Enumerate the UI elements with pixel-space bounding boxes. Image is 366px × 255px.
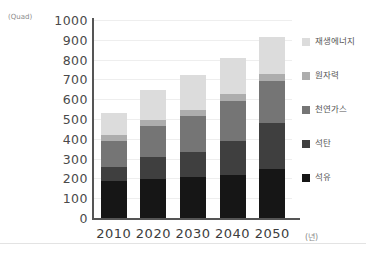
y-axis-tick-100: 100 <box>32 191 88 206</box>
bar-segment-2030-0 <box>180 177 206 218</box>
plot-area <box>94 20 292 218</box>
bar-2050 <box>259 37 285 218</box>
bar-segment-2050-0 <box>259 169 285 219</box>
y-axis-tick-800: 800 <box>32 52 88 67</box>
legend-label: 천연가스 <box>315 105 347 114</box>
y-axis-tick-300: 300 <box>32 151 88 166</box>
legend-label: 재생에너지 <box>315 37 355 46</box>
bar-segment-2040-2 <box>220 101 246 141</box>
y-axis-tick-500: 500 <box>32 112 88 127</box>
bar-segment-2010-2 <box>101 141 127 167</box>
bar-segment-2010-0 <box>101 181 127 218</box>
bar-2030 <box>180 74 206 218</box>
legend-swatch-icon <box>302 72 310 80</box>
x-axis-unit-label: (년) <box>305 231 318 242</box>
y-axis-tick-0: 0 <box>32 211 88 226</box>
bar-2040 <box>220 58 246 218</box>
bottom-divider <box>0 243 366 244</box>
bar-segment-2010-1 <box>101 167 127 182</box>
stacked-bar-chart: (Quad) 10009008007006005004003002001000 … <box>0 0 366 255</box>
bar-segment-2030-1 <box>180 152 206 178</box>
legend-swatch-icon <box>302 140 310 148</box>
bar-segment-2020-2 <box>140 126 166 157</box>
bar-segment-2050-2 <box>259 81 285 123</box>
bar-segment-2050-1 <box>259 123 285 169</box>
legend: 재생에너지원자력천연가스석탄석유 <box>302 36 366 206</box>
x-axis-line <box>92 218 300 220</box>
y-axis-tick-700: 700 <box>32 72 88 87</box>
bar-segment-2030-4 <box>180 75 206 111</box>
bar-segment-2020-0 <box>140 179 166 218</box>
bar-segment-2010-4 <box>101 113 127 135</box>
bar-2020 <box>140 90 166 218</box>
legend-label: 석탄 <box>315 139 331 148</box>
bar-segment-2050-3 <box>259 74 285 81</box>
legend-item-재생에너지[interactable]: 재생에너지 <box>302 36 366 47</box>
y-axis-tick-600: 600 <box>32 92 88 107</box>
legend-item-석유[interactable]: 석유 <box>302 172 366 183</box>
legend-item-원자력[interactable]: 원자력 <box>302 70 366 81</box>
legend-swatch-icon <box>302 174 310 182</box>
y-axis-tick-labels: 10009008007006005004003002001000 <box>32 0 88 255</box>
bar-2010 <box>101 113 127 218</box>
gridline-1000 <box>94 20 292 21</box>
legend-label: 석유 <box>315 173 331 182</box>
legend-item-천연가스[interactable]: 천연가스 <box>302 104 366 115</box>
y-axis-tick-1000: 1000 <box>32 13 88 28</box>
y-axis-tick-200: 200 <box>32 171 88 186</box>
legend-swatch-icon <box>302 38 310 46</box>
bar-segment-2020-4 <box>140 90 166 120</box>
legend-swatch-icon <box>302 106 310 114</box>
legend-item-석탄[interactable]: 석탄 <box>302 138 366 149</box>
bar-segment-2030-2 <box>180 116 206 152</box>
bar-segment-2050-4 <box>259 37 285 75</box>
bar-segment-2040-3 <box>220 94 246 101</box>
legend-label: 원자력 <box>315 71 339 80</box>
y-axis-tick-900: 900 <box>32 32 88 47</box>
x-axis-tick-2050: 2050 <box>245 226 299 241</box>
bar-segment-2040-4 <box>220 58 246 95</box>
y-axis-unit-label: (Quad) <box>8 13 32 21</box>
bar-segment-2020-1 <box>140 157 166 180</box>
y-axis-tick-400: 400 <box>32 131 88 146</box>
bar-segment-2040-1 <box>220 141 246 176</box>
bar-segment-2040-0 <box>220 175 246 218</box>
